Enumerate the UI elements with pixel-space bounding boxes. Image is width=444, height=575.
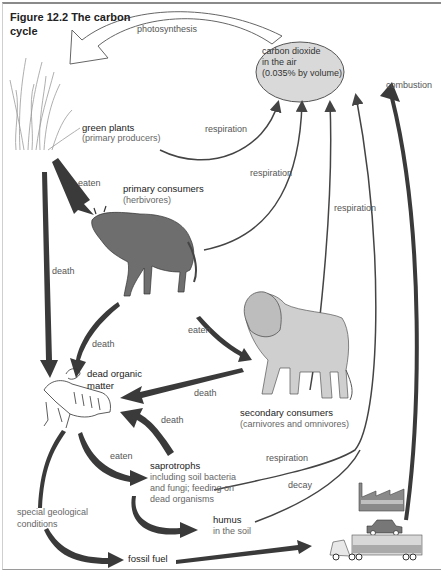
figure-title-line1: Figure 12.2 The carbon — [10, 10, 160, 24]
death-carnivores-label: death — [194, 388, 217, 399]
humus-name: humus — [213, 514, 242, 525]
dead-organic-line2: matter — [87, 380, 114, 391]
special-geological-line2: conditions — [17, 519, 58, 530]
primary-consumers-sub: (herbivores) — [123, 195, 171, 206]
factory-icon — [359, 483, 404, 511]
respiration-carnivores-label: respiration — [334, 203, 376, 214]
car-icon — [367, 520, 402, 536]
saprotrophs-name: saprotrophs — [150, 460, 200, 471]
humus-sub: in the soil — [213, 526, 251, 537]
decay-label: decay — [288, 480, 312, 491]
respiration-saprotrophs-label: respiration — [266, 453, 308, 464]
combustion-arrow — [392, 98, 417, 520]
co2-line1: carbon dioxide — [262, 46, 342, 57]
dead-organic-line1: dead organic — [87, 368, 142, 379]
eaten-saprotrophs-label: eaten — [110, 451, 133, 462]
green-plants-name: green plants — [82, 122, 134, 133]
eaten-plants-label: eaten — [78, 178, 101, 189]
truck-icon — [330, 535, 422, 560]
wildebeest-icon — [92, 206, 196, 296]
grass-icon — [10, 58, 80, 150]
death-saprotrophs-label: death — [161, 415, 184, 426]
death-herbivores-label: death — [92, 339, 115, 350]
saprotrophs-line1: including soil bacteria — [150, 472, 236, 483]
primary-consumers-name: primary consumers — [123, 183, 204, 194]
co2-label: carbon dioxide in the air (0.035% by vol… — [262, 46, 342, 79]
death-plants-label: death — [52, 266, 75, 277]
secondary-consumers-name: secondary consumers — [240, 407, 333, 418]
combustion-label: combustion — [386, 80, 432, 91]
respiration-herbivores-label: respiration — [250, 168, 292, 179]
saprotrophs-line3: dead organisms — [150, 494, 214, 505]
eaten-herbivores-label: eaten — [188, 325, 211, 336]
respiration-plants-label: respiration — [205, 124, 247, 135]
green-plants-sub: (primary producers) — [82, 133, 161, 144]
special-geological-line1: special geological — [17, 507, 88, 518]
co2-line3: (0.035% by volume) — [262, 68, 342, 79]
lion-icon — [244, 292, 352, 400]
co2-line2: in the air — [262, 57, 342, 68]
photosynthesis-label: photosynthesis — [137, 24, 197, 35]
secondary-consumers-sub: (carnivores and omnivores) — [240, 419, 349, 430]
saprotrophs-line2: and fungi; feeding on — [150, 483, 234, 494]
fossil-fuel-label: fossil fuel — [128, 553, 168, 564]
